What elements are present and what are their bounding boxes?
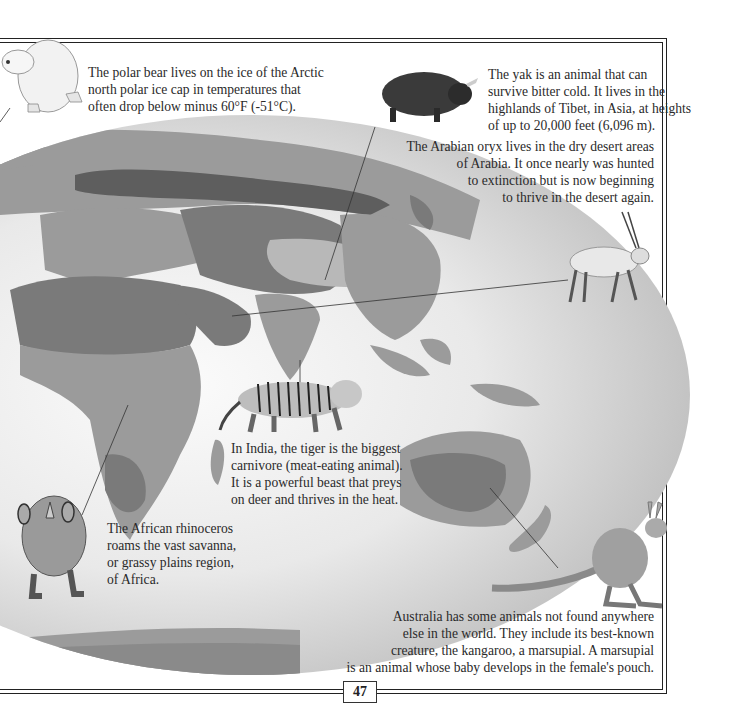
caption-line: carnivore (meat-eating animal). bbox=[231, 457, 403, 474]
caption-line: The African rhinoceros bbox=[107, 520, 236, 537]
caption-line: The yak is an animal that can bbox=[488, 66, 691, 83]
caption-line: of Arabia. It once nearly was hunted bbox=[406, 155, 654, 172]
caption-line: roams the vast savanna, bbox=[107, 537, 236, 554]
caption-line: else in the world. They include its best… bbox=[347, 625, 654, 642]
caption-line: to extinction but is now beginning bbox=[406, 172, 654, 189]
caption-line: creature, the kangaroo, a marsupial. A m… bbox=[347, 642, 654, 659]
oryx-caption: The Arabian oryx lives in the dry desert… bbox=[406, 138, 654, 206]
caption-line: survive bitter cold. It lives in the bbox=[488, 83, 691, 100]
caption-line: The polar bear lives on the ice of the A… bbox=[88, 64, 324, 81]
polar-bear-illustration bbox=[0, 28, 86, 116]
caption-line: is an animal whose baby develops in the … bbox=[347, 659, 654, 676]
arabian-oryx-illustration bbox=[556, 210, 656, 310]
caption-line: often drop below minus 60°F (-51°C). bbox=[88, 98, 324, 115]
rhinoceros-caption: The African rhinoceros roams the vast sa… bbox=[107, 520, 236, 588]
book-page: The polar bear lives on the ice of the A… bbox=[0, 0, 736, 722]
caption-line: of Africa. bbox=[107, 571, 236, 588]
caption-line: Australia has some animals not found any… bbox=[347, 608, 654, 625]
tiger-caption: In India, the tiger is the biggest carni… bbox=[231, 440, 403, 508]
caption-line: or grassy plains region, bbox=[107, 554, 236, 571]
caption-line: north polar ice cap in temperatures that bbox=[88, 81, 324, 98]
caption-line: of up to 20,000 feet (6,096 m). bbox=[488, 117, 691, 134]
page-number: 47 bbox=[343, 681, 377, 703]
kangaroo-illustration bbox=[490, 498, 676, 610]
caption-line: on deer and thrives in the heat. bbox=[231, 491, 403, 508]
yak-caption: The yak is an animal that can survive bi… bbox=[488, 66, 691, 134]
caption-line: The Arabian oryx lives in the dry desert… bbox=[406, 138, 654, 155]
kangaroo-caption: Australia has some animals not found any… bbox=[347, 608, 654, 676]
caption-line: to thrive in the desert again. bbox=[406, 189, 654, 206]
yak-illustration bbox=[380, 66, 482, 126]
polar-bear-caption: The polar bear lives on the ice of the A… bbox=[88, 64, 324, 115]
african-rhinoceros-illustration bbox=[12, 488, 94, 602]
caption-line: In India, the tiger is the biggest bbox=[231, 440, 403, 457]
tiger-illustration bbox=[218, 372, 366, 436]
caption-line: highlands of Tibet, in Asia, at heights bbox=[488, 100, 691, 117]
caption-line: It is a powerful beast that preys bbox=[231, 474, 403, 491]
